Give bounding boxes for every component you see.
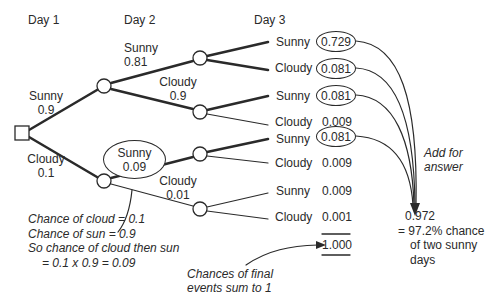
node-day3-cs [193,147,207,161]
add-for-answer-note: Add for answer [424,146,463,174]
label-sc: Cloudy 0.9 [156,75,200,103]
node-day3-sc [193,105,207,119]
label-cc: Cloudy 0.01 [156,174,200,202]
outcome-value-2: 0.081 [316,58,356,79]
node-day3-cc [193,202,207,216]
root-node [15,126,29,140]
outcome-label-8: Cloudy [275,210,312,224]
node-day2-sunny [97,79,111,93]
explanation-note: Chance of cloud = 0.1 Chance of sun = 0.… [28,212,179,270]
label-day1-sunny: Sunny 0.9 [28,89,64,117]
header-day2: Day 2 [124,13,155,27]
outcome-value-8: 0.001 [322,210,352,224]
result-text: 0.972 = 97.2% chance of two sunny days [398,209,484,267]
outcome-label-7: Sunny [276,184,310,198]
label-ss: Sunny 0.81 [124,41,158,69]
node-day2-cloudy [97,174,111,188]
node-day3-ss [193,51,207,65]
outcome-label-4: Cloudy [275,115,312,129]
outcome-label-1: Sunny [276,35,310,49]
outcome-label-5: Sunny [276,132,310,146]
total-value: 1.000 [322,238,352,252]
label-day1-cloudy: Cloudy 0.1 [26,152,66,180]
header-day1: Day 1 [28,13,59,27]
outcome-label-6: Cloudy [275,156,312,170]
sum-note: Chances of final events sum to 1 [187,267,273,295]
outcome-value-7: 0.009 [322,184,352,198]
outcome-value-5: 0.081 [316,126,356,147]
header-day3: Day 3 [254,13,285,27]
outcome-value-1: 0.729 [316,31,356,52]
outcome-value-6: 0.009 [322,156,352,170]
outcome-value-3: 0.081 [316,85,356,106]
outcome-label-2: Cloudy [275,61,312,75]
outcome-label-3: Sunny [276,89,310,103]
